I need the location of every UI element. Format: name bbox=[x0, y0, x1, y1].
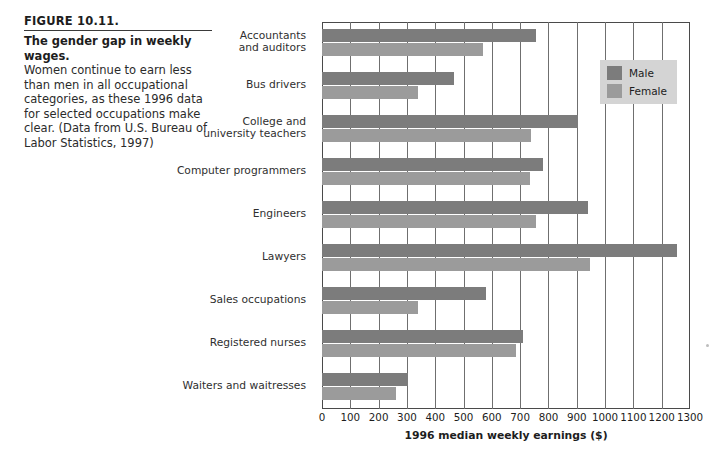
bar-female bbox=[322, 344, 516, 357]
category-label: Bus drivers bbox=[126, 79, 306, 92]
x-tick-label: 600 bbox=[482, 411, 502, 423]
bar-female bbox=[322, 387, 396, 400]
category-label: Engineers bbox=[126, 208, 306, 221]
x-tick-label: 400 bbox=[425, 411, 445, 423]
category-label: Computer programmers bbox=[126, 165, 306, 178]
x-tick-label: 0 bbox=[319, 411, 326, 423]
x-axis-ticks: 0100200300400500600700800900100011001200… bbox=[322, 411, 690, 425]
bar-male bbox=[322, 158, 543, 171]
bar-male bbox=[322, 287, 486, 300]
legend-item: Female bbox=[607, 84, 667, 98]
bar-group bbox=[322, 22, 690, 65]
bar-group bbox=[322, 108, 690, 151]
legend-item: Male bbox=[607, 66, 667, 80]
x-tick-label: 700 bbox=[510, 411, 530, 423]
legend-swatch-male bbox=[607, 66, 622, 80]
bar-male bbox=[322, 373, 408, 386]
bar-female bbox=[322, 301, 418, 314]
bar-male bbox=[322, 244, 677, 257]
x-tick-label: 900 bbox=[567, 411, 587, 423]
x-tick-label: 100 bbox=[340, 411, 360, 423]
category-label: Registered nurses bbox=[126, 337, 306, 350]
x-tick-label: 1000 bbox=[592, 411, 618, 423]
chart-legend: MaleFemale bbox=[600, 60, 677, 104]
page-speck bbox=[706, 344, 709, 347]
bar-male bbox=[322, 72, 454, 85]
bar-female bbox=[322, 215, 536, 228]
legend-label: Female bbox=[629, 85, 667, 97]
bar-group bbox=[322, 151, 690, 194]
category-axis-labels: Accountantsand auditorsBus driversColleg… bbox=[130, 22, 314, 409]
legend-swatch-female bbox=[607, 84, 622, 98]
bar-group bbox=[322, 237, 690, 280]
bar-male bbox=[322, 330, 523, 343]
bar-group bbox=[322, 194, 690, 237]
x-tick-label: 300 bbox=[397, 411, 417, 423]
bar-female bbox=[322, 43, 483, 56]
bar-female bbox=[322, 172, 530, 185]
bar-female bbox=[322, 258, 590, 271]
bar-male bbox=[322, 115, 578, 128]
category-label: Waiters and waitresses bbox=[126, 380, 306, 393]
bar-male bbox=[322, 29, 536, 42]
bar-male bbox=[322, 201, 588, 214]
x-tick-label: 500 bbox=[454, 411, 474, 423]
category-label: College anduniversity teachers bbox=[126, 116, 306, 141]
x-tick-label: 1200 bbox=[649, 411, 675, 423]
category-label: Accountantsand auditors bbox=[126, 30, 306, 55]
bar-group bbox=[322, 323, 690, 366]
legend-label: Male bbox=[629, 67, 654, 79]
x-tick-label: 800 bbox=[539, 411, 559, 423]
bar-female bbox=[322, 129, 531, 142]
x-tick-label: 200 bbox=[369, 411, 389, 423]
x-tick-label: 1300 bbox=[677, 411, 703, 423]
bar-group bbox=[322, 280, 690, 323]
x-tick-label: 1100 bbox=[620, 411, 646, 423]
bar-female bbox=[322, 86, 418, 99]
bar-group bbox=[322, 366, 690, 409]
x-axis-title: 1996 median weekly earnings ($) bbox=[322, 429, 690, 442]
category-label: Sales occupations bbox=[126, 294, 306, 307]
category-label: Lawyers bbox=[126, 251, 306, 264]
